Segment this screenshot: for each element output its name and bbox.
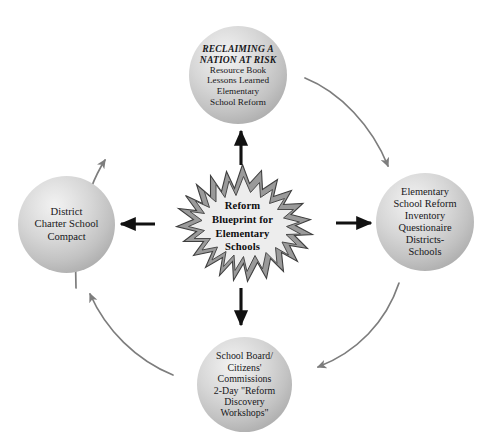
- node-district-charter-school-compact[interactable]: District Charter School Compact: [18, 176, 115, 273]
- node-right-line-3: Inventory: [380, 210, 470, 222]
- node-right-line-5: Districts-: [380, 234, 470, 246]
- node-top-line-4: School Reform: [193, 97, 283, 108]
- node-top-line-3: Elementary: [193, 86, 283, 97]
- node-top-line-2: Lessons Learned: [193, 75, 283, 86]
- node-bottom-line-3: Commissions: [201, 373, 288, 384]
- starburst-shape: [170, 164, 315, 289]
- node-top-text: RECLAIMING A NATION AT RISK Resource Boo…: [189, 43, 287, 108]
- node-bottom-line-4: 2-Day "Reform: [201, 385, 288, 396]
- node-bottom-line-2: Citizens': [201, 362, 288, 373]
- node-right-line-4: Questionaire: [380, 222, 470, 234]
- node-reclaiming-a-nation-at-risk[interactable]: RECLAIMING A NATION AT RISK Resource Boo…: [189, 26, 287, 124]
- node-top-heading-line-1: RECLAIMING A: [193, 43, 283, 54]
- node-right-line-6: Schools: [380, 246, 470, 258]
- curved-arrow-bottom-to-left: [90, 294, 173, 375]
- curved-arrow-top-to-right: [305, 78, 388, 166]
- node-bottom-line-1: School Board/: [201, 350, 288, 361]
- node-right-line-2: School Reform: [380, 198, 470, 210]
- node-bottom-line-5: Discovery: [201, 396, 288, 407]
- node-top-line-1: Resource Book: [193, 65, 283, 76]
- node-right-text: Elementary School Reform Inventory Quest…: [376, 186, 474, 258]
- reform-blueprint-diagram: RECLAIMING A NATION AT RISK Resource Boo…: [0, 0, 483, 439]
- node-bottom-line-6: Workshops": [201, 407, 288, 418]
- node-right-line-1: Elementary: [380, 186, 470, 198]
- node-elementary-school-reform-inventory[interactable]: Elementary School Reform Inventory Quest…: [376, 173, 474, 271]
- node-left-line-3: Compact: [22, 231, 111, 243]
- curved-arrow-right-to-bottom: [318, 283, 399, 367]
- starburst-inner-path: [189, 177, 301, 272]
- node-bottom-text: School Board/ Citizens' Commissions 2-Da…: [197, 350, 292, 419]
- node-top-heading-line-2: NATION AT RISK: [193, 54, 283, 65]
- node-school-board-citizens-commissions[interactable]: School Board/ Citizens' Commissions 2-Da…: [197, 337, 292, 432]
- node-left-line-1: District: [22, 206, 111, 218]
- node-left-text: District Charter School Compact: [18, 206, 115, 243]
- node-left-line-2: Charter School: [22, 218, 111, 230]
- center-starburst[interactable]: Reform Blueprint for Elementary Schools: [170, 164, 315, 289]
